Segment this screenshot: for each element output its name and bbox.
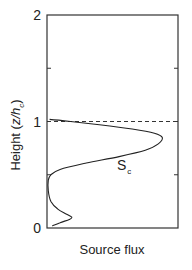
y-tick-label: 2 (33, 7, 41, 23)
source-flux-profile-chart: 012 Sc Height (z/hc) Source flux (0, 0, 192, 270)
y-tick-label: 1 (33, 114, 41, 130)
x-axis-label: Source flux (79, 242, 145, 257)
y-axis-label: Height (z/hc) (8, 99, 26, 170)
source-flux-curve (48, 119, 162, 225)
series-label-sc: Sc (117, 157, 131, 176)
y-tick-label: 0 (33, 220, 41, 236)
